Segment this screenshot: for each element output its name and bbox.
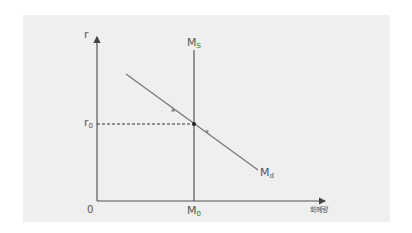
money-supply-label-main: M xyxy=(187,36,197,49)
money-demand-label: Md xyxy=(260,167,274,180)
equilibrium-point xyxy=(192,122,196,126)
origin-label: 0 xyxy=(87,205,93,215)
equilibrium-quantity-label-main: M xyxy=(187,204,197,217)
money-supply-label-sub: S xyxy=(197,42,201,50)
y-axis-label: r xyxy=(84,29,89,40)
money-supply-label: MS xyxy=(187,37,201,50)
equilibrium-quantity-label-sub: 0 xyxy=(197,210,201,218)
equilibrium-quantity-label: M0 xyxy=(187,205,201,218)
money-demand-label-sub: d xyxy=(270,172,274,180)
money-demand-label-main: M xyxy=(260,166,270,179)
equilibrium-rate-label: r0 xyxy=(84,117,93,130)
money-demand-line xyxy=(126,74,258,170)
money-market-diagram xyxy=(0,0,412,233)
x-axis-label: 화폐량 xyxy=(310,207,328,214)
equilibrium-rate-label-sub: 0 xyxy=(89,122,93,130)
